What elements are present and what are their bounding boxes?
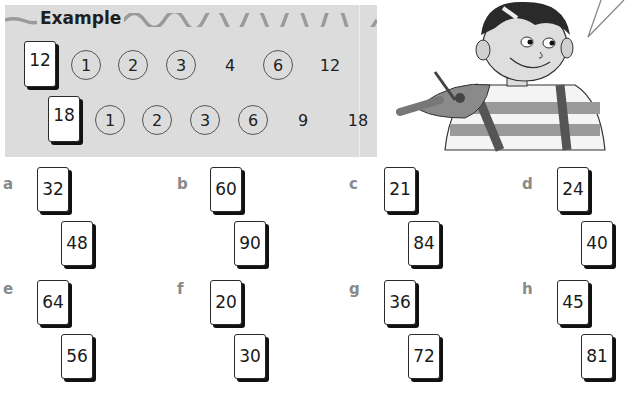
question-label: g <box>349 280 360 298</box>
number-card: 30 <box>234 334 266 379</box>
number-card: 24 <box>557 167 589 212</box>
question-label: f <box>177 280 184 298</box>
number-card: 81 <box>581 334 613 379</box>
example-number-card: 12 <box>24 41 56 87</box>
number-card: 36 <box>384 280 416 325</box>
number-card: 48 <box>61 221 93 266</box>
number-card: 40 <box>581 221 613 266</box>
factor: 4 <box>215 56 245 75</box>
circled-factor: 6 <box>238 105 268 135</box>
number-card: 64 <box>37 280 69 325</box>
number-card: 45 <box>557 280 589 325</box>
factor: 18 <box>343 111 373 130</box>
number-card: 56 <box>61 334 93 379</box>
circled-factor: 2 <box>118 50 148 80</box>
number-card: 20 <box>210 280 242 325</box>
speech-bubble-tail-icon <box>588 0 624 37</box>
question-label: c <box>349 175 358 193</box>
circled-factor: 2 <box>142 105 172 135</box>
number-card: 60 <box>210 167 242 212</box>
factor: 12 <box>315 56 345 75</box>
example-number-card: 18 <box>48 96 80 142</box>
question-label: h <box>522 280 533 298</box>
example-title: Example <box>37 8 124 28</box>
circled-factor: 1 <box>95 105 125 135</box>
question-label: b <box>177 175 188 193</box>
number-card: 32 <box>37 167 69 212</box>
question-label: a <box>3 175 13 193</box>
question-label: d <box>522 175 533 193</box>
factor: 9 <box>288 111 318 130</box>
circled-factor: 6 <box>263 50 293 80</box>
example-panel: Example 12 1 2 3 4 6 12 18 1 2 3 6 9 18 <box>5 5 377 157</box>
circled-factor: 3 <box>166 50 196 80</box>
number-card: 84 <box>408 221 440 266</box>
boy-illustration <box>395 0 627 160</box>
number-card: 90 <box>234 221 266 266</box>
question-label: e <box>3 280 13 298</box>
number-card: 72 <box>408 334 440 379</box>
number-card: 21 <box>384 167 416 212</box>
circled-factor: 3 <box>190 105 220 135</box>
panel-divider <box>359 5 360 157</box>
circled-factor: 1 <box>71 50 101 80</box>
